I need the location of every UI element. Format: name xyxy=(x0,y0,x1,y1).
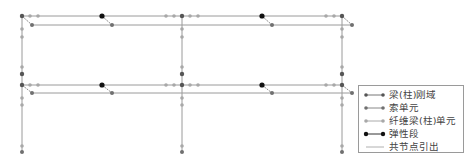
rigid-zone-marker-icon xyxy=(363,90,387,100)
cable-nodes xyxy=(20,23,354,154)
legend-label: 纤维梁(柱)单元 xyxy=(389,115,456,127)
cable-marker-icon xyxy=(363,103,387,113)
shared-node-line-icon xyxy=(363,142,387,152)
legend-item-rigid-zone: 梁(柱)刚域 xyxy=(363,89,436,101)
legend-item-elastic: 弹性段 xyxy=(363,128,419,140)
legend-label: 弹性段 xyxy=(389,128,419,140)
legend-item-fiber: 纤维梁(柱)单元 xyxy=(363,115,456,127)
legend: 梁(柱)刚域 索单元 纤维梁(柱)单元 弹性段 共节点引出 xyxy=(358,85,464,153)
legend-item-shared-node: 共节点引出 xyxy=(363,141,439,153)
frame-lines xyxy=(22,16,352,153)
fiber-marker-icon xyxy=(363,116,387,126)
legend-label: 梁(柱)刚域 xyxy=(389,89,436,101)
shared-node-leads xyxy=(22,16,352,93)
legend-label: 索单元 xyxy=(389,102,419,114)
elastic-marker-icon xyxy=(363,129,387,139)
legend-label: 共节点引出 xyxy=(389,141,439,153)
legend-item-cable: 索单元 xyxy=(363,102,419,114)
